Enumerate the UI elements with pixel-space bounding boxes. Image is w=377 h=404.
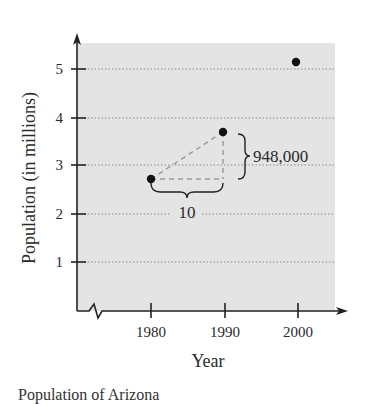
x-tick-label-1980: 1980	[136, 324, 166, 340]
y-tick-label-2: 2	[56, 206, 64, 222]
plot-panel	[77, 43, 335, 311]
x-tick-label-1990: 1990	[210, 324, 240, 340]
x-axis-title: Year	[191, 351, 224, 371]
y-tick-label-1: 1	[56, 254, 64, 270]
y-tick-labels: 5 4 3 2 1	[56, 61, 64, 270]
y-tick-label-3: 3	[56, 157, 64, 173]
run-label: 10	[179, 203, 196, 222]
y-axis-title: Population (in millions)	[19, 92, 40, 264]
y-tick-label-5: 5	[56, 61, 64, 77]
data-point-2000	[292, 58, 300, 66]
rise-label: 948,000	[253, 147, 308, 166]
data-point-1980	[147, 175, 155, 183]
x-tick-labels: 1980 1990 2000	[136, 324, 313, 340]
x-tick-label-2000: 2000	[283, 324, 313, 340]
data-point-1990	[219, 128, 227, 136]
figure-caption: Population of Arizona	[18, 386, 159, 404]
y-tick-label-4: 4	[56, 110, 64, 126]
